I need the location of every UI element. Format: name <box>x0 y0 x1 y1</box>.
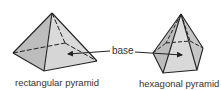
hexagonal-pyramid <box>153 14 203 73</box>
rectangular-pyramid-label: rectangular pyramid <box>15 77 99 88</box>
rectangular-pyramid <box>13 13 97 71</box>
hexagonal-pyramid-label: hexagonal pyramid <box>139 78 219 89</box>
base-label: base <box>112 45 134 56</box>
